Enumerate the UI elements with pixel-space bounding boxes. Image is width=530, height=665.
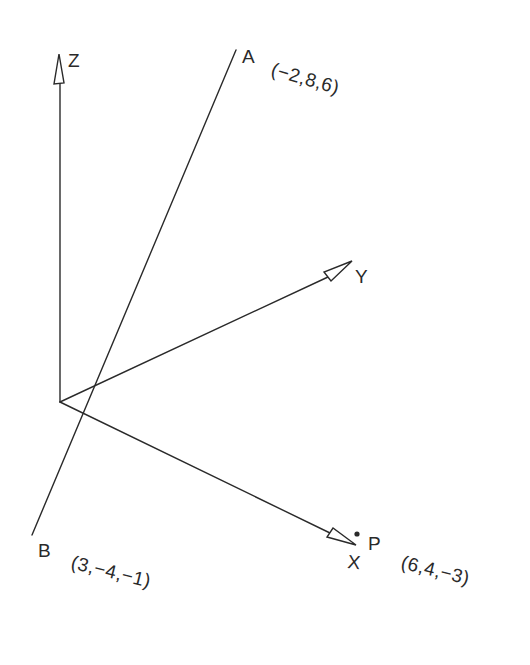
y-axis-arrowhead-icon [324,261,352,281]
z-axis-arrowhead-icon [54,54,64,84]
y-axis-line [60,277,328,402]
y-axis-label: Y [355,266,368,287]
x-axis-arrowhead-icon [327,528,356,545]
x-axis: X [60,402,362,573]
z-axis-label: Z [68,50,80,71]
coordinate-diagram: Z Y X A (−2,8,6) B (3,−4,−1) P (6,4,−3) [0,0,530,665]
point-p-label: P [368,533,381,554]
z-axis: Z [54,50,80,402]
x-axis-label: X [347,551,362,573]
point-b-coords: (3,−4,−1) [69,552,153,592]
point-p-coords: (6,4,−3) [399,552,472,589]
point-p: P (6,4,−3) [354,531,472,588]
point-b-label: B [38,540,51,561]
point-a-coords: (−2,8,6) [269,59,342,98]
point-p-dot-icon [354,531,359,536]
x-axis-line [60,402,330,533]
y-axis: Y [60,261,368,402]
line-ab-segment [32,50,236,535]
line-ab: A (−2,8,6) B (3,−4,−1) [32,46,342,592]
point-a-label: A [242,46,255,67]
